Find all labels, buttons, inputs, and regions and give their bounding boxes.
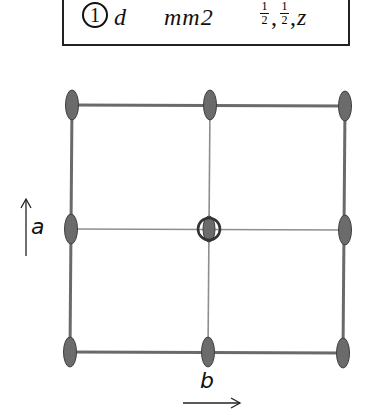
- axis-a-arrow: [21, 199, 31, 256]
- twofold-axis-icon: [65, 214, 78, 244]
- twofold-axis-icon: [204, 90, 217, 120]
- twofold-axis-icon: [339, 91, 352, 121]
- twofold-axis-icon: [339, 215, 352, 245]
- axis-a-label: a: [31, 214, 44, 239]
- axis-b-label: b: [200, 368, 214, 393]
- twofold-axis-icon: [64, 337, 77, 367]
- twofold-axis-icon: [337, 338, 350, 368]
- twofold-axis-icon: [66, 90, 79, 120]
- twofold-axis-icon: [202, 337, 215, 367]
- axis-b-arrow: [183, 398, 240, 408]
- symmetry-diagram: [0, 0, 374, 415]
